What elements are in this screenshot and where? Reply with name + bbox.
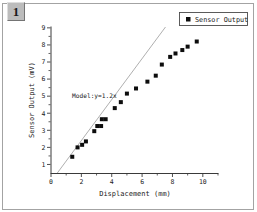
data-point-marker xyxy=(168,55,172,59)
data-point-marker xyxy=(80,143,84,147)
x-tick-label: 6 xyxy=(140,178,144,186)
data-point-marker xyxy=(100,117,104,121)
y-tick-label: 9 xyxy=(42,24,46,32)
y-tick-label: 3 xyxy=(42,127,46,135)
data-point-marker xyxy=(70,155,74,159)
data-point-marker xyxy=(195,40,199,44)
y-tick-label: 6 xyxy=(42,75,46,83)
model-annotation: Model:y=1.2x xyxy=(72,92,117,100)
x-axis-label: Displacement (mm) xyxy=(99,190,171,198)
figure-number: 1 xyxy=(13,4,20,20)
legend-label: Sensor Output xyxy=(195,16,248,24)
data-point-marker xyxy=(154,74,158,78)
y-tick-label: 7 xyxy=(42,58,46,66)
x-tick-label: 2 xyxy=(79,178,83,186)
legend: Sensor Output xyxy=(180,13,249,26)
data-point-marker xyxy=(186,45,190,49)
data-point-marker xyxy=(113,106,117,110)
y-tick-label: 1 xyxy=(42,161,46,169)
data-point-marker xyxy=(104,117,108,121)
data-point-marker xyxy=(180,48,184,52)
data-point-marker xyxy=(95,124,99,128)
figure-number-badge: 1 xyxy=(7,2,25,21)
data-point-marker xyxy=(99,124,103,128)
x-tick-label: 10 xyxy=(199,178,207,186)
data-point-marker xyxy=(125,92,129,96)
data-point-marker xyxy=(84,139,88,143)
x-tick-label: 0 xyxy=(49,178,53,186)
data-point-marker xyxy=(76,145,80,149)
figure-panel: 1 0246810123456789 Model:y=1.2x Displace… xyxy=(0,0,257,212)
y-tick-label: 5 xyxy=(42,92,46,100)
model-fit-line xyxy=(57,27,165,173)
data-point-marker xyxy=(119,100,123,104)
x-tick-label: 4 xyxy=(110,178,114,186)
data-point-marker xyxy=(92,129,96,133)
x-tick-label: 8 xyxy=(170,178,174,186)
y-tick-label: 8 xyxy=(42,41,46,49)
scatter-chart: 0246810123456789 Model:y=1.2x Displaceme… xyxy=(0,0,257,212)
axis-ticks: 0246810123456789 xyxy=(42,24,218,185)
y-tick-label: 4 xyxy=(42,110,46,118)
y-axis-label: Sensor Output (mV) xyxy=(28,62,36,138)
data-point-marker xyxy=(160,63,164,67)
data-point-marker xyxy=(145,80,149,84)
data-points xyxy=(70,40,198,159)
legend-marker-square xyxy=(186,17,191,22)
y-tick-label: 2 xyxy=(42,144,46,152)
data-point-marker xyxy=(173,51,177,55)
data-point-marker xyxy=(134,86,138,90)
